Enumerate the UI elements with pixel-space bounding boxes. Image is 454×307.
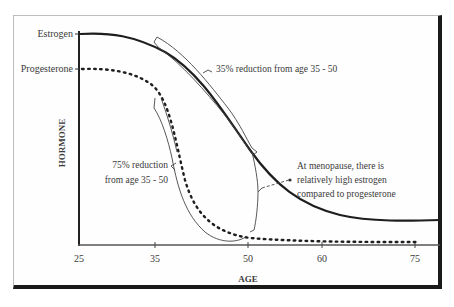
x-tick-label-25: 25 (74, 253, 84, 264)
annotation-progesterone-reduction-line1: 75% reduction (112, 160, 168, 170)
menopause-bracket-point (258, 188, 262, 192)
hormone-chart: 25 35 50 60 75 AGE HORMONE Estrogen Prog… (0, 0, 454, 307)
annotation-estrogen-reduction: 35% reduction from age 35 - 50 (216, 64, 338, 74)
x-tick-label-75: 75 (410, 253, 420, 264)
x-tick-label-35: 35 (150, 253, 160, 264)
menopause-gap-bracket (250, 152, 258, 232)
x-tick-label-60: 60 (317, 253, 327, 264)
annotation-menopause-line1: At menopause, there is (297, 161, 384, 171)
series-label-estrogen: Estrogen (37, 28, 73, 39)
annotation-menopause-line2: relatively high estrogen (297, 175, 387, 185)
progesterone-line (82, 69, 418, 242)
x-tick-label-50: 50 (243, 253, 253, 264)
y-axis-title: HORMONE (57, 119, 67, 168)
x-axis-title: AGE (238, 274, 258, 284)
annotation-menopause-line3: compared to progesterone (297, 189, 396, 199)
annotation-progesterone-reduction-line2: from age 35 - 50 (105, 175, 169, 185)
menopause-arrow-dot (288, 178, 291, 181)
estrogen-bracket-point (203, 70, 212, 73)
series-label-progesterone: Progesterone (21, 63, 74, 74)
